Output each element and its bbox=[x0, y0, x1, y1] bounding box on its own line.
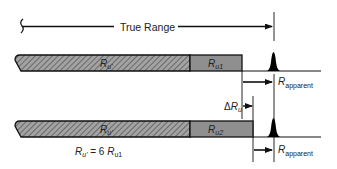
apparent-range-2: Rapparent bbox=[254, 144, 313, 158]
apparent-range-label-1: Rapparent bbox=[278, 76, 313, 90]
true-range-label: True Range bbox=[120, 21, 175, 33]
range-ambiguity-diagram: True Range Ru' Ru1 Rapparent ΔRu Ru' Ru2… bbox=[0, 0, 337, 169]
delta-range: ΔRu bbox=[224, 101, 252, 113]
pulse-train-bar-2: Ru' Ru2 bbox=[15, 118, 321, 137]
delta-range-label: ΔRu bbox=[224, 101, 242, 113]
echo-pulse-2 bbox=[267, 118, 280, 137]
apparent-range-label-2: Rapparent bbox=[278, 144, 313, 158]
true-range-indicator: True Range bbox=[21, 12, 274, 41]
pulse-train-bar-1: Ru' Ru1 bbox=[15, 52, 321, 71]
echo-pulse-1 bbox=[267, 52, 280, 71]
apparent-range-1: Rapparent bbox=[243, 76, 313, 90]
range-equation: Ru' = 6 Ru1 bbox=[75, 146, 122, 158]
